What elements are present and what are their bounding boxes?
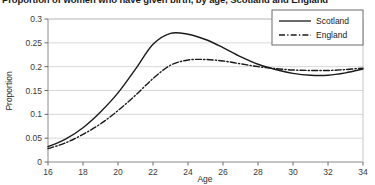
y-tick-label: 0.1	[30, 109, 42, 119]
legend-label-scotland: Scotland	[316, 16, 349, 26]
x-tick-label: 16	[43, 167, 53, 177]
x-tick-label: 20	[113, 167, 123, 177]
y-axis: 00.050.10.150.20.250.3	[25, 14, 48, 167]
x-tick-label: 30	[288, 167, 298, 177]
x-axis-title: Age	[197, 174, 212, 184]
y-axis-title: Proportion	[4, 71, 14, 110]
chart-plot-area: 00.050.10.150.20.250.3 16182022242628303…	[0, 0, 375, 185]
y-tick-label: 0	[37, 157, 42, 167]
y-tick-label: 0.2	[30, 62, 42, 72]
x-tick-label: 32	[323, 167, 333, 177]
x-tick-label: 26	[218, 167, 228, 177]
x-tick-label: 22	[148, 167, 158, 177]
x-tick-label: 18	[78, 167, 88, 177]
x-tick-label: 24	[183, 167, 193, 177]
y-tick-label: 0.05	[25, 133, 42, 143]
chart-legend[interactable]: Scotland England	[272, 10, 363, 45]
x-tick-label: 34	[358, 167, 368, 177]
y-tick-label: 0.3	[30, 14, 42, 24]
chart-figure: Proportion of women who have given birth…	[0, 0, 375, 185]
legend-label-england: England	[316, 30, 347, 40]
y-tick-label: 0.25	[25, 38, 42, 48]
x-tick-label: 28	[253, 167, 263, 177]
y-tick-label: 0.15	[25, 86, 42, 96]
